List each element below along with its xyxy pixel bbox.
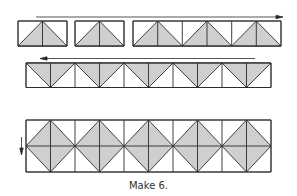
- row2-flying-geese-strip: [26, 63, 271, 88]
- row1-arrow-right: [36, 15, 283, 18]
- row3-diamond-strip: [26, 120, 271, 172]
- flying-geese-strip: [133, 21, 281, 46]
- flying-geese-unit: [75, 21, 124, 46]
- caption: Make 6.: [0, 180, 297, 191]
- row3-arrow-down: [20, 137, 23, 155]
- quilt-diagram: [0, 0, 297, 196]
- flying-geese-unit: [18, 21, 67, 46]
- row2-arrow-left: [40, 57, 255, 60]
- row1-flying-geese: [18, 21, 281, 46]
